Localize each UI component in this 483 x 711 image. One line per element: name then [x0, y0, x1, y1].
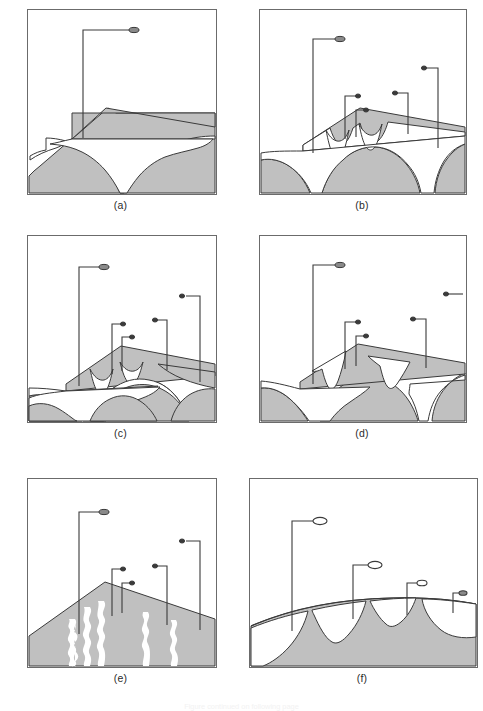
panel-d-label: (d) [355, 428, 368, 439]
probe-head-ellipse-icon[interactable] [363, 334, 368, 338]
probe-head-ellipse-icon[interactable] [355, 320, 360, 324]
panel-b-frame [259, 9, 467, 195]
probe-head-ellipse-icon[interactable] [355, 94, 360, 98]
probe-head-ellipse-icon[interactable] [120, 322, 125, 326]
probe-marker-5[interactable] [443, 292, 463, 296]
panel-a-diagram [28, 10, 216, 194]
probe-head-ellipse-icon[interactable] [99, 509, 109, 514]
panel-d-frame [259, 235, 467, 423]
panel-a-frame [27, 9, 217, 195]
probe-head-ellipse-icon[interactable] [443, 292, 448, 296]
probe-head-ellipse-icon[interactable] [129, 27, 139, 32]
panel-e: (e) [0, 467, 241, 711]
probe-head-ellipse-icon[interactable] [421, 66, 426, 70]
figure-caption-strip: Figure continued on following page [0, 702, 483, 711]
panel-e-diagram [28, 479, 216, 667]
panel-e-frame [27, 478, 217, 668]
probe-head-ellipse-icon[interactable] [152, 318, 157, 322]
probe-head-ellipse-icon[interactable] [417, 580, 427, 586]
probe-head-ellipse-icon[interactable] [459, 591, 467, 596]
probe-head-ellipse-icon[interactable] [99, 264, 109, 269]
probe-head-ellipse-icon[interactable] [179, 294, 184, 298]
panel-e-label: (e) [114, 673, 127, 684]
probe-head-ellipse-icon[interactable] [368, 561, 382, 568]
panel-d-diagram [260, 236, 466, 422]
probe-head-ellipse-icon[interactable] [363, 108, 368, 112]
panel-f-diagram [250, 479, 477, 667]
panel-f: (f) [241, 467, 483, 711]
probe-head-ellipse-icon[interactable] [120, 567, 125, 571]
panel-b-diagram [260, 10, 466, 194]
panel-f-label: (f) [357, 673, 368, 684]
panel-c-label: (c) [114, 428, 127, 439]
probe-head-ellipse-icon[interactable] [335, 36, 345, 41]
probe-head-ellipse-icon[interactable] [335, 262, 345, 267]
panel-f-frame [249, 478, 478, 668]
probe-head-ellipse-icon[interactable] [179, 539, 184, 543]
panel-a-label: (a) [114, 200, 127, 211]
panel-c: (c) [0, 231, 241, 467]
probe-head-ellipse-icon[interactable] [410, 317, 415, 321]
panel-a: (a) [0, 0, 241, 231]
probe-head-ellipse-icon[interactable] [392, 91, 397, 95]
panel-b-label: (b) [355, 200, 368, 211]
panel-d: (d) [241, 231, 483, 467]
figure-panel-grid: (a) [0, 0, 483, 711]
panel-b: (b) [241, 0, 483, 231]
panel-c-frame [27, 235, 217, 423]
probe-head-ellipse-icon[interactable] [152, 564, 157, 568]
probe-head-ellipse-icon[interactable] [129, 581, 134, 585]
probe-head-ellipse-icon[interactable] [129, 335, 134, 339]
probe-head-ellipse-icon[interactable] [313, 517, 327, 524]
figure-caption-text: Figure continued on following page [0, 702, 483, 711]
panel-c-diagram [28, 236, 216, 422]
